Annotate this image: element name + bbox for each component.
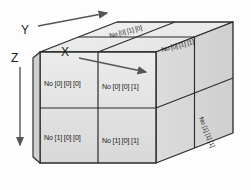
- cube-front-face: [40, 52, 156, 163]
- axis-z: Z: [11, 51, 20, 145]
- cube-diagram: No [0] [0] [0] No [0] [0] [1] No [1] [0]…: [0, 0, 251, 190]
- axis-y-arrow-icon: [38, 13, 107, 26]
- front-cell-label-101: No [1] [0] [1]: [102, 137, 139, 145]
- axis-z-label: Z: [11, 51, 18, 65]
- cube-left-edge: [33, 52, 40, 163]
- front-cell-label-100: No [1] [0] [0]: [44, 134, 81, 142]
- front-cell-label-001: No [0] [0] [1]: [102, 83, 139, 91]
- axis-y-label: Y: [21, 23, 29, 37]
- axis-x-label: X: [61, 45, 69, 59]
- front-cell-label-000: No [0] [0] [0]: [44, 80, 81, 88]
- array-cube-figure: No [0] [0] [0] No [0] [0] [1] No [1] [0]…: [0, 0, 251, 190]
